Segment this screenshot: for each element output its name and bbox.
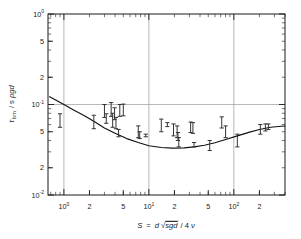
y-tick-label: 5 bbox=[40, 127, 44, 136]
figure-container: 10025101251022 1005210-15210-2 S=d√sgd/ … bbox=[0, 0, 301, 239]
y-tick-label: 2 bbox=[40, 73, 44, 82]
y-tick-label: 2 bbox=[40, 163, 44, 172]
x-tick-label: 2 bbox=[87, 202, 91, 211]
x-axis-title: S=d√sgd/ 4ν bbox=[137, 221, 195, 230]
x-tick-label: 5 bbox=[121, 202, 125, 211]
x-tick-label: 2 bbox=[172, 202, 176, 211]
x-tick-label: 2 bbox=[257, 202, 261, 211]
x-axis-title-text: S=d√sgd/ 4ν bbox=[137, 221, 195, 230]
y-tick-label: 5 bbox=[40, 37, 44, 46]
log-log-scatter-chart: 10025101251022 1005210-15210-2 S=d√sgd/ … bbox=[0, 0, 301, 239]
x-tick-label: 5 bbox=[206, 202, 210, 211]
